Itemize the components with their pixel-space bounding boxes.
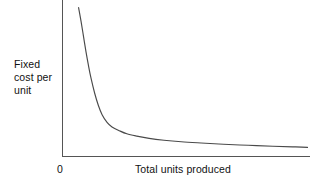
y-axis-label-line-3: unit: [14, 84, 60, 97]
chart-container: Fixed cost per unit 0 Total units produc…: [0, 0, 317, 182]
y-axis-label-line-1: Fixed: [14, 58, 60, 71]
x-axis-label: Total units produced: [135, 163, 231, 176]
y-axis-label: Fixed cost per unit: [14, 58, 60, 97]
y-axis-label-line-2: cost per: [14, 71, 60, 84]
x-axis-origin-tick-label: 0: [57, 163, 63, 176]
